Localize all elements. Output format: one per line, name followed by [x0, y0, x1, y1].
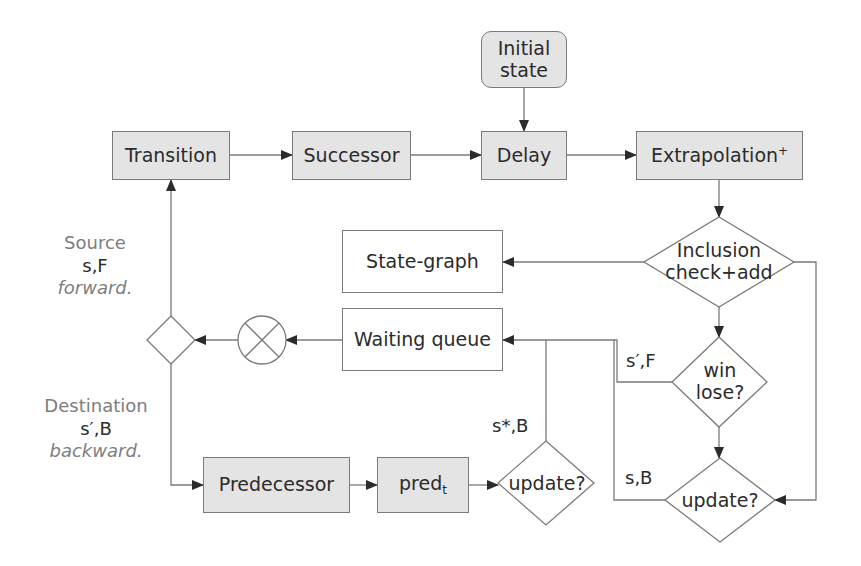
edge-label-s-star-b: s*,B: [492, 415, 528, 436]
state-graph-label: State-graph: [366, 251, 479, 273]
waiting-queue-node: Waiting queue: [342, 308, 503, 371]
edge-label-s-b: s,B: [625, 467, 652, 488]
successor-label: Successor: [304, 145, 400, 167]
destination-direction: backward.: [44, 440, 147, 463]
extrapolation-text: Extrapolation: [651, 144, 778, 166]
delay-label: Delay: [497, 145, 552, 167]
inclusion-line2: check+add: [665, 262, 772, 284]
pred-t-node: predt: [377, 457, 469, 513]
extrapolation-label: Extrapolation+: [651, 145, 788, 167]
edge-inclusion-update: [775, 262, 816, 500]
extrapolation-sup: +: [778, 144, 788, 158]
source-annotation: Source s,F forward.: [57, 232, 132, 300]
branch-diamond: [147, 316, 195, 364]
pred-t-sub: t: [442, 483, 447, 497]
inclusion-line1: Inclusion: [665, 240, 772, 262]
predecessor-node: Predecessor: [203, 457, 350, 513]
source-title: Source: [57, 232, 132, 255]
edge-branch-predecessor: [171, 364, 203, 485]
destination-value: s′,B: [44, 418, 147, 441]
winlose-label: win lose?: [696, 360, 745, 404]
destination-annotation: Destination s′,B backward.: [44, 395, 147, 463]
update-right-label: update?: [681, 490, 758, 512]
inclusion-label: Inclusion check+add: [665, 240, 772, 284]
update-mid-label: update?: [508, 473, 585, 495]
transition-node: Transition: [112, 131, 230, 180]
edge-label-s-prime-f: s′,F: [626, 350, 656, 371]
transition-label: Transition: [125, 145, 217, 167]
source-direction: forward.: [57, 277, 132, 300]
destination-title: Destination: [44, 395, 147, 418]
state-graph-node: State-graph: [342, 230, 503, 293]
predecessor-label: Predecessor: [219, 474, 334, 496]
initial-state-line1: Initial: [498, 38, 551, 60]
initial-state-node: Initial state: [481, 31, 567, 88]
waiting-queue-label: Waiting queue: [354, 329, 491, 351]
successor-node: Successor: [292, 131, 411, 180]
source-value: s,F: [57, 255, 132, 278]
delay-node: Delay: [481, 131, 567, 180]
extrapolation-node: Extrapolation+: [636, 131, 803, 180]
winlose-line2: lose?: [696, 382, 745, 404]
pred-t-text: pred: [399, 472, 442, 494]
winlose-line1: win: [696, 360, 745, 382]
initial-state-line2: state: [500, 60, 548, 82]
pred-t-label: predt: [399, 473, 447, 498]
